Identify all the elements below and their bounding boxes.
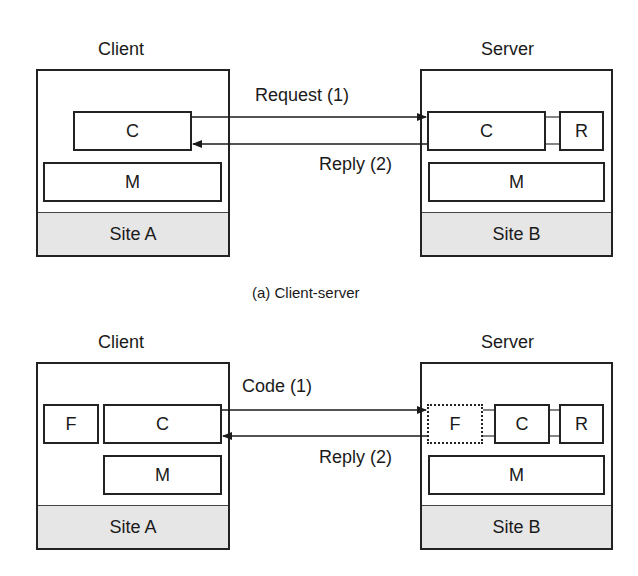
message-arrows bbox=[0, 0, 638, 576]
